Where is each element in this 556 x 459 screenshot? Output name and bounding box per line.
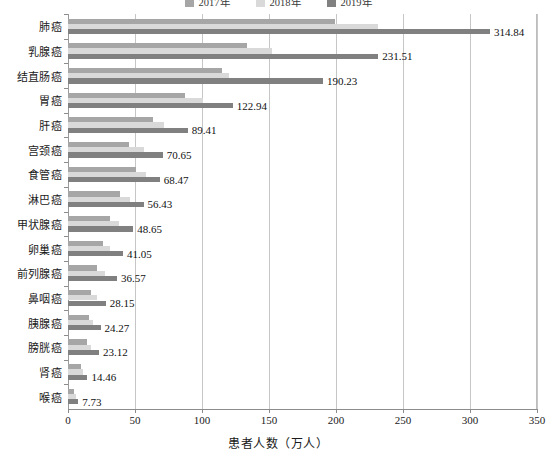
bar-value-label: 56.43 bbox=[148, 198, 173, 210]
legend-label: 2018年 bbox=[270, 0, 301, 9]
y-axis-category-label: 肾癌 bbox=[39, 364, 62, 380]
bar-2019年[interactable]: 28.15 bbox=[68, 301, 106, 306]
bar-value-label: 89.41 bbox=[192, 124, 217, 136]
category-group: 前列腺癌36.57 bbox=[68, 261, 537, 286]
bar-2019年[interactable]: 314.84 bbox=[68, 29, 490, 34]
y-axis-tick bbox=[64, 137, 68, 138]
y-axis-tick bbox=[64, 212, 68, 213]
legend-item-2019年[interactable]: 2019年 bbox=[327, 0, 372, 9]
category-group: 胰腺癌24.27 bbox=[68, 310, 537, 335]
category-group: 胃癌122.94 bbox=[68, 88, 537, 113]
y-axis-tick bbox=[64, 187, 68, 188]
bar-2019年[interactable]: 7.73 bbox=[68, 399, 78, 404]
plot-area: 肺癌314.84乳腺癌231.51结直肠癌190.23胃癌122.94肝癌89.… bbox=[68, 14, 537, 409]
bar-2019年[interactable]: 70.65 bbox=[68, 152, 163, 157]
x-axis-tick-label: 150 bbox=[261, 414, 278, 426]
bar-2019年[interactable]: 23.12 bbox=[68, 350, 99, 355]
y-axis-category-label: 宫颈癌 bbox=[28, 142, 62, 158]
bar-2019年[interactable]: 48.65 bbox=[68, 226, 133, 231]
category-group: 鼻咽癌28.15 bbox=[68, 286, 537, 311]
y-axis-tick bbox=[64, 384, 68, 385]
chart-legend: 2017年2018年2019年 bbox=[0, 0, 556, 11]
bar-2019年[interactable]: 68.47 bbox=[68, 177, 160, 182]
x-axis-tick-label: 300 bbox=[462, 414, 479, 426]
x-axis-tick-label: 350 bbox=[529, 414, 546, 426]
bar-value-label: 190.23 bbox=[327, 75, 357, 87]
bar-2019年[interactable]: 89.41 bbox=[68, 128, 188, 133]
legend-item-2018年[interactable]: 2018年 bbox=[256, 0, 301, 9]
legend-item-2017年[interactable]: 2017年 bbox=[185, 0, 230, 9]
bar-2019年[interactable]: 36.57 bbox=[68, 276, 117, 281]
bar-chart: 2017年2018年2019年 肺癌314.84乳腺癌231.51结直肠癌190… bbox=[0, 0, 556, 459]
x-axis-tick-label: 0 bbox=[65, 414, 71, 426]
y-axis-category-label: 前列腺癌 bbox=[17, 265, 62, 281]
category-group: 肾癌14.46 bbox=[68, 360, 537, 385]
y-axis-tick bbox=[64, 113, 68, 114]
x-axis-tick bbox=[68, 409, 69, 413]
y-axis-category-label: 胰腺癌 bbox=[28, 315, 62, 331]
y-axis-tick bbox=[64, 162, 68, 163]
bar-2019年[interactable]: 56.43 bbox=[68, 202, 144, 207]
bar-2019年[interactable]: 122.94 bbox=[68, 103, 233, 108]
bar-value-label: 41.05 bbox=[127, 248, 152, 260]
category-group: 结直肠癌190.23 bbox=[68, 63, 537, 88]
y-axis-tick bbox=[64, 39, 68, 40]
y-axis-tick bbox=[64, 14, 68, 15]
y-axis-category-label: 肺癌 bbox=[39, 18, 62, 34]
y-axis-tick bbox=[64, 88, 68, 89]
x-axis-title: 患者人数（万人） bbox=[0, 434, 556, 452]
bar-value-label: 24.27 bbox=[105, 322, 130, 334]
x-axis-tick-label: 250 bbox=[395, 414, 412, 426]
y-axis-category-label: 鼻咽癌 bbox=[28, 290, 62, 306]
y-axis-category-label: 胃癌 bbox=[39, 92, 62, 108]
y-axis-category-label: 喉癌 bbox=[39, 389, 62, 405]
category-group: 肺癌314.84 bbox=[68, 14, 537, 39]
category-group: 卵巢癌41.05 bbox=[68, 236, 537, 261]
bar-value-label: 48.65 bbox=[137, 223, 162, 235]
bar-value-label: 23.12 bbox=[103, 346, 128, 358]
y-axis-category-label: 结直肠癌 bbox=[17, 68, 62, 84]
bar-value-label: 231.51 bbox=[382, 50, 412, 62]
bar-value-label: 122.94 bbox=[237, 100, 267, 112]
x-axis-line bbox=[68, 409, 538, 410]
y-axis-tick bbox=[64, 286, 68, 287]
category-group: 食管癌68.47 bbox=[68, 162, 537, 187]
y-axis-tick bbox=[64, 261, 68, 262]
bar-value-label: 68.47 bbox=[164, 174, 189, 186]
x-axis-tick-label: 50 bbox=[130, 414, 141, 426]
bar-value-label: 14.46 bbox=[91, 371, 116, 383]
legend-label: 2017年 bbox=[199, 0, 230, 9]
category-group: 乳腺癌231.51 bbox=[68, 39, 537, 64]
bar-2019年[interactable]: 41.05 bbox=[68, 251, 123, 256]
legend-swatch-icon bbox=[185, 0, 194, 7]
category-group: 宫颈癌70.65 bbox=[68, 137, 537, 162]
x-axis-tick-label: 100 bbox=[194, 414, 211, 426]
category-group: 甲状腺癌48.65 bbox=[68, 212, 537, 237]
y-axis-category-label: 甲状腺癌 bbox=[17, 216, 62, 232]
y-axis-category-label: 卵巢癌 bbox=[28, 241, 62, 257]
x-axis-tick-label: 200 bbox=[328, 414, 345, 426]
legend-swatch-icon bbox=[256, 0, 265, 7]
y-axis-tick bbox=[64, 335, 68, 336]
legend-label: 2019年 bbox=[341, 0, 372, 9]
bar-value-label: 70.65 bbox=[167, 149, 192, 161]
x-axis-tick bbox=[470, 409, 471, 413]
y-axis-category-label: 肝癌 bbox=[39, 117, 62, 133]
y-axis-category-label: 乳腺癌 bbox=[28, 43, 62, 59]
category-group: 膀胱癌23.12 bbox=[68, 335, 537, 360]
x-axis-tick bbox=[135, 409, 136, 413]
bar-2019年[interactable]: 231.51 bbox=[68, 54, 378, 59]
x-axis-tick bbox=[269, 409, 270, 413]
y-axis-category-label: 食管癌 bbox=[28, 166, 62, 182]
bar-2019年[interactable]: 190.23 bbox=[68, 78, 323, 83]
bar-value-label: 28.15 bbox=[110, 297, 135, 309]
x-axis-tick bbox=[403, 409, 404, 413]
x-axis-tick bbox=[537, 409, 538, 413]
bar-value-label: 314.84 bbox=[494, 26, 524, 38]
bar-value-label: 36.57 bbox=[121, 272, 146, 284]
x-axis-tick bbox=[336, 409, 337, 413]
bar-2019年[interactable]: 24.27 bbox=[68, 325, 101, 330]
legend-swatch-icon bbox=[327, 0, 336, 7]
y-axis-tick bbox=[64, 63, 68, 64]
bar-2019年[interactable]: 14.46 bbox=[68, 375, 87, 380]
